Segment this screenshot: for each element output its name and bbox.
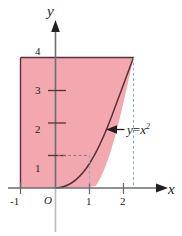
equation-rhs-exponent: 2	[146, 122, 150, 131]
y-tick-label-3: 3	[35, 85, 41, 96]
y-tick-label-4: 4	[35, 46, 41, 57]
y-axis-label: y	[47, 4, 54, 19]
x-tick-label-neg1: -1	[10, 196, 19, 207]
curve-equation-label: y=x2	[127, 123, 150, 136]
math-figure: y x 4 3 2 1 -1 O 1 2 y=x2	[0, 0, 182, 236]
x-axis-arrowhead	[156, 184, 168, 193]
x-tick-label-1: 1	[86, 196, 92, 207]
x-tick-label-2: 2	[120, 196, 126, 207]
y-axis-arrowhead	[51, 20, 60, 32]
y-tick-label-2: 2	[35, 124, 41, 135]
x-axis-label: x	[168, 182, 175, 197]
origin-label: O	[44, 195, 52, 206]
y-tick-label-1: 1	[35, 163, 41, 174]
